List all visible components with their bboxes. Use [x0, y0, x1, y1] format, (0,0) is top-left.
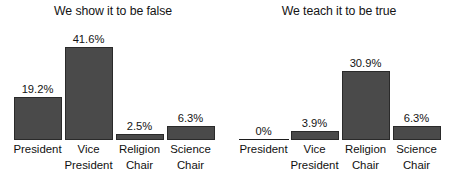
bar-value-label: 2.5%: [127, 120, 153, 133]
x-tick-line2: Chair: [165, 158, 216, 174]
chart-figure: We show it to be false 19.2% 41.6% 2.5% …: [0, 0, 452, 181]
x-axis-labels-left: President Vice President Religion Chair …: [12, 142, 216, 173]
bar-group-right: 0% 3.9% 30.9% 6.3%: [238, 26, 442, 140]
bar-slot: 3.9%: [289, 26, 340, 140]
bar-value-label: 6.3%: [404, 112, 430, 125]
x-tick-line2: President: [63, 158, 114, 174]
x-tick-label: President: [12, 142, 63, 173]
bar-rect: [291, 131, 339, 140]
bar-rect: [116, 134, 164, 140]
bar-value-label: 3.9%: [302, 117, 328, 130]
x-tick-line1: Vice: [304, 143, 326, 155]
bar-group-left: 19.2% 41.6% 2.5% 6.3%: [12, 26, 216, 140]
bar-slot: 6.3%: [165, 26, 216, 140]
x-tick-line1: Science: [170, 143, 211, 155]
bar-value-label: 30.9%: [350, 57, 382, 70]
x-tick-label: Vice President: [289, 142, 340, 173]
x-axis-labels-right: President Vice President Religion Chair …: [238, 142, 442, 173]
bar-value-label: 0%: [255, 125, 271, 138]
chart-panel-right: We teach it to be true 0% 3.9% 30.9% 6.3…: [226, 0, 452, 181]
bar-slot: 30.9%: [340, 26, 391, 140]
bar-slot: 41.6%: [63, 26, 114, 140]
x-tick-line1: President: [13, 143, 61, 155]
chart-panel-left: We show it to be false 19.2% 41.6% 2.5% …: [0, 0, 226, 181]
x-tick-label: Vice President: [63, 142, 114, 173]
x-tick-line1: Religion: [119, 143, 160, 155]
x-tick-line1: Science: [396, 143, 437, 155]
x-tick-label: Religion Chair: [114, 142, 165, 173]
plot-area-right: 0% 3.9% 30.9% 6.3%: [238, 26, 442, 140]
chart-title-left: We show it to be false: [0, 4, 226, 18]
x-tick-line2: Chair: [340, 158, 391, 174]
bar-rect: [342, 71, 390, 140]
bar-rect: [14, 97, 62, 140]
x-tick-line1: Religion: [345, 143, 386, 155]
bar-rect: [393, 126, 441, 140]
bar-rect: [167, 126, 215, 140]
x-tick-line1: President: [239, 143, 287, 155]
bar-slot: 6.3%: [391, 26, 442, 140]
x-tick-line2: Chair: [114, 158, 165, 174]
bar-value-label: 6.3%: [178, 112, 204, 125]
bar-slot: 19.2%: [12, 26, 63, 140]
x-tick-label: Science Chair: [391, 142, 442, 173]
chart-title-right: We teach it to be true: [226, 4, 452, 18]
bar-rect: [239, 139, 289, 141]
bar-slot: 0%: [238, 26, 289, 140]
x-tick-label: Religion Chair: [340, 142, 391, 173]
x-tick-line1: Vice: [78, 143, 100, 155]
x-tick-label: Science Chair: [165, 142, 216, 173]
plot-area-left: 19.2% 41.6% 2.5% 6.3%: [12, 26, 216, 140]
x-tick-label: President: [238, 142, 289, 173]
bar-value-label: 41.6%: [73, 33, 105, 46]
x-tick-line2: President: [289, 158, 340, 174]
bar-slot: 2.5%: [114, 26, 165, 140]
bar-rect: [65, 47, 113, 140]
bar-value-label: 19.2%: [22, 83, 54, 96]
x-tick-line2: Chair: [391, 158, 442, 174]
